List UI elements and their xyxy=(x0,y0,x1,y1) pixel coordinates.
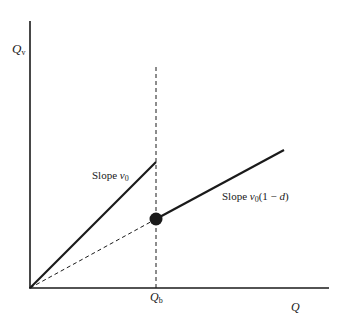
dashed-extension-line xyxy=(30,219,156,288)
slope-v0-label: Slope v0 xyxy=(92,169,129,183)
slope-v0-sub: 0 xyxy=(125,174,129,183)
diagram-canvas xyxy=(0,0,342,321)
slope2-open: (1 − xyxy=(259,190,280,202)
slope-v0-1-minus-d-label: Slope v0(1 − d) xyxy=(222,190,289,204)
x-axis-label: Q xyxy=(291,300,300,315)
qb-main: Q xyxy=(150,290,159,304)
slope2-prefix: Slope xyxy=(222,190,250,202)
slope-v0-prefix: Slope xyxy=(92,169,120,181)
slope2-close: ) xyxy=(285,190,289,202)
slope-v0-1-minus-d-line xyxy=(156,150,284,219)
y-axis-label: Qv xyxy=(12,41,25,57)
qb-sub: b xyxy=(159,296,163,305)
qb-tick-label: Qb xyxy=(150,290,163,305)
breakpoint-marker xyxy=(150,213,163,226)
y-axis-label-main: Q xyxy=(12,41,21,56)
y-axis-label-sub: v xyxy=(21,48,25,57)
